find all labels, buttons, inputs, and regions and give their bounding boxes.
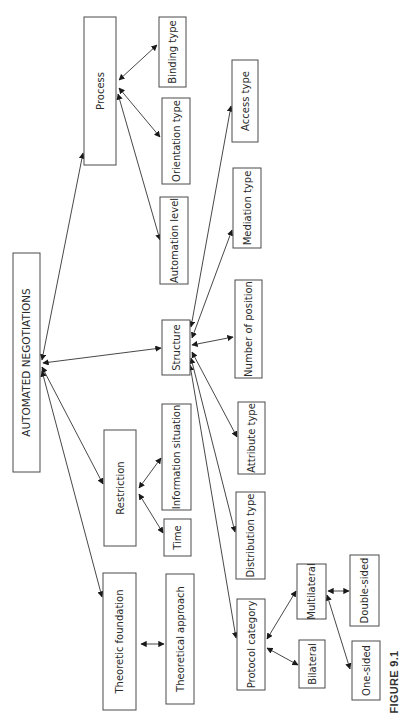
node-information-situation: Information situation <box>162 404 191 510</box>
node-binding-type: Binding type <box>159 17 186 87</box>
node-label: Theoretical approach <box>175 586 186 693</box>
node-one-sided: One-sided <box>352 641 380 700</box>
node-double-sided: Double-sided <box>350 555 379 626</box>
node-label: Distribution type <box>245 494 256 578</box>
edge-root-to-structure <box>43 348 161 363</box>
edge-root-to-restriction <box>42 367 103 484</box>
edge-root-to-theoretic-foundation <box>42 371 102 597</box>
figure-caption: FIGURE 9.1 <box>388 651 400 714</box>
node-label: Double-sided <box>359 558 370 624</box>
node-label: Structure <box>171 324 182 371</box>
node-bilateral: Bilateral <box>299 640 325 688</box>
node-label: Time <box>172 525 183 550</box>
node-automation-level: Automation level <box>160 197 188 284</box>
node-label: Theoretic foundation <box>114 589 125 694</box>
node-orientation-type: Orientation type <box>162 98 190 184</box>
nodes-layer: AUTOMATED NEGOTIATIONS Process Binding t… <box>13 17 380 710</box>
edge-restriction-to-information-situation <box>139 458 161 488</box>
node-automated-negotiations: AUTOMATED NEGOTIATIONS <box>13 253 40 472</box>
node-label: Process <box>95 72 106 110</box>
node-time: Time <box>164 519 191 556</box>
node-access-type: Access type <box>232 60 258 142</box>
node-label: Multilateral <box>306 563 317 619</box>
node-label: Automation level <box>169 198 180 283</box>
node-label: Information situation <box>171 405 182 510</box>
edge-process-to-binding-type <box>119 45 157 80</box>
node-label: Binding type <box>167 20 178 83</box>
node-number-of-position: Number of position <box>235 280 262 378</box>
node-theoretic-foundation: Theoretic foundation <box>103 573 136 710</box>
node-label: Access type <box>240 71 251 131</box>
taxonomy-diagram: AUTOMATED NEGOTIATIONS Process Binding t… <box>0 0 406 724</box>
edge-structure-to-attribute-type <box>192 352 237 437</box>
node-label: Bilateral <box>307 643 318 685</box>
edge-structure-to-access-type <box>191 106 231 327</box>
node-label: Orientation type <box>171 100 182 182</box>
edge-multilateral-to-one-sided <box>327 595 350 669</box>
node-restriction: Restriction <box>104 430 136 546</box>
node-label: Protocol category <box>246 601 257 689</box>
edge-protocol-category-to-bilateral <box>267 648 298 665</box>
node-label: Number of position <box>243 281 254 377</box>
node-distribution-type: Distribution type <box>236 492 265 579</box>
node-mediation-type: Mediation type <box>233 168 261 248</box>
edge-structure-to-protocol-category <box>190 365 236 638</box>
edge-root-to-process <box>42 153 83 360</box>
node-multilateral: Multilateral <box>297 563 326 619</box>
node-label: One-sided <box>361 645 372 696</box>
edge-structure-to-distribution-type <box>191 358 235 532</box>
node-label: Mediation type <box>242 171 253 246</box>
edge-structure-to-number-of-position <box>192 337 233 345</box>
edge-structure-to-mediation-type <box>192 230 232 338</box>
node-label: Attribute type <box>246 403 257 473</box>
node-label: Restriction <box>115 461 126 514</box>
edge-process-to-automation-level <box>118 94 160 240</box>
node-process: Process <box>84 17 116 165</box>
edge-process-to-orientation-type <box>119 88 160 137</box>
node-label: AUTOMATED NEGOTIATIONS <box>20 288 32 437</box>
edge-restriction-to-time <box>139 494 163 533</box>
node-attribute-type: Attribute type <box>238 402 265 474</box>
node-protocol-category: Protocol category <box>237 599 265 690</box>
node-structure: Structure <box>162 320 190 375</box>
node-theoretical-approach: Theoretical approach <box>166 574 194 704</box>
edge-protocol-category-to-multilateral <box>267 591 296 639</box>
